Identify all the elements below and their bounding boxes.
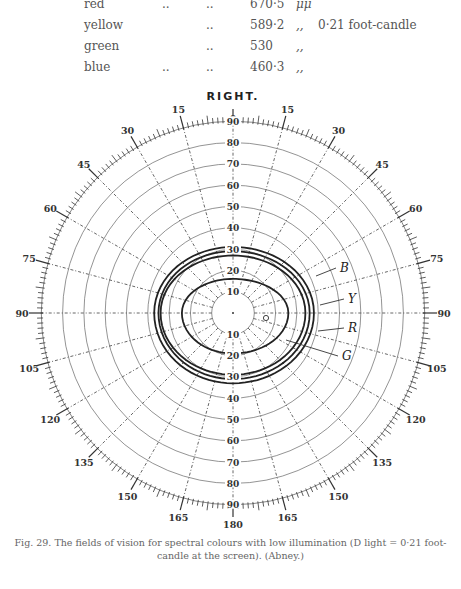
minor-tick [213,502,214,508]
radial-label-10: 10 [227,287,240,297]
perimeter-chart: RIGHT. 015304560759010512013515016518016… [0,0,461,589]
angle-label-270: 90 [15,308,29,319]
chart-title: RIGHT. [207,90,260,103]
meridian-105 [254,319,420,363]
minor-tick [112,155,117,162]
minor-tick [277,498,278,504]
angle-label-15: 15 [281,104,294,115]
angle-label-60: 60 [409,203,423,214]
angle-label-120: 120 [406,414,426,425]
meridian-315 [97,177,218,298]
major-tick [89,447,99,457]
fixation-point [232,312,234,314]
minor-tick [287,495,289,501]
minor-tick [422,333,428,334]
leader-line-Y [320,299,344,305]
minor-tick [177,495,179,501]
radial-label-50: 50 [227,415,240,425]
minor-tick [421,343,427,344]
major-tick [131,478,138,490]
major-tick [131,136,138,148]
minor-tick [418,267,424,268]
minor-tick [75,192,82,197]
major-tick [36,260,50,264]
angle-label-195: 165 [168,512,188,523]
minor-tick [268,120,269,126]
minor-tick [187,498,188,504]
major-tick [367,169,377,179]
minor-tick [39,343,45,344]
radial-label-30: 30 [227,372,240,382]
minor-tick [421,282,427,283]
meridian-120 [251,324,400,410]
radial-label-50: 50 [227,202,240,212]
minor-tick [187,122,188,128]
radial-label-70: 70 [227,458,240,468]
minor-tick [287,125,289,131]
minor-tick [75,429,82,434]
minor-tick [349,464,354,471]
angle-label-225: 135 [74,457,94,468]
minor-tick [177,125,179,131]
angle-label-135: 135 [372,457,392,468]
minor-tick [38,293,44,294]
angle-label-330: 30 [121,125,135,136]
angle-label-150: 150 [329,491,349,502]
caption-line-1: Fig. 29. The fields of vision for spectr… [0,536,461,549]
minor-tick [40,348,46,349]
minor-tick [192,499,193,505]
curve-label-G: G [342,349,352,363]
angle-label-165: 165 [278,512,298,523]
angle-label-315: 45 [77,159,90,170]
minor-tick [42,357,48,358]
minor-tick [415,257,421,259]
minor-tick [39,282,45,283]
minor-tick [202,119,203,125]
radial-label-80: 80 [227,479,240,489]
meridian-165 [239,334,283,500]
radial-label-30: 30 [227,245,240,255]
major-tick [417,260,431,264]
angle-label-345: 15 [172,104,185,115]
angle-label-285: 75 [23,253,36,264]
angle-label-180: 180 [223,519,243,530]
major-tick [180,116,184,130]
major-tick [328,136,335,148]
radial-label-60: 60 [227,436,240,446]
radial-label-20: 20 [227,266,240,276]
minor-tick [38,333,44,334]
radial-label-70: 70 [227,159,240,169]
curve-label-Y: Y [348,292,357,306]
minor-tick [112,464,117,471]
figure-caption: Fig. 29. The fields of vision for spectr… [0,536,461,562]
minor-tick [268,500,269,506]
minor-tick [197,120,198,126]
radial-label-90: 90 [227,500,240,510]
minor-tick [40,277,46,278]
minor-tick [420,348,426,349]
caption-line-2: candle at the screen). (Abney.) [0,549,461,562]
radial-label-40: 40 [227,223,240,233]
minor-tick [384,192,391,197]
minor-tick [213,118,214,124]
minor-tick [202,501,203,507]
major-tick [89,169,99,179]
minor-tick [192,121,193,127]
minor-tick [273,121,274,127]
major-tick [367,447,377,457]
meridian-300 [66,217,215,303]
meridian-255 [47,319,213,363]
radial-label-20: 20 [227,351,240,361]
angle-label-30: 30 [332,125,346,136]
minor-tick [419,272,425,273]
radial-label-40: 40 [227,394,240,404]
meridian-45 [248,177,369,298]
minor-tick [415,367,421,369]
radial-label-90: 90 [227,117,240,127]
angle-label-240: 120 [40,414,60,425]
meridian-285 [47,263,213,307]
minor-tick [45,367,51,369]
radial-label-60: 60 [227,181,240,191]
minor-tick [384,429,391,434]
meridian-195 [183,334,227,500]
